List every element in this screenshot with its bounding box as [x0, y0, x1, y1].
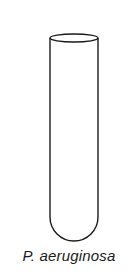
tube-body	[50, 38, 98, 241]
organism-label: P. aeruginosa	[0, 247, 138, 264]
test-tube-icon	[50, 34, 98, 241]
test-tube-illustration	[0, 0, 138, 280]
tube-rim	[50, 34, 98, 42]
